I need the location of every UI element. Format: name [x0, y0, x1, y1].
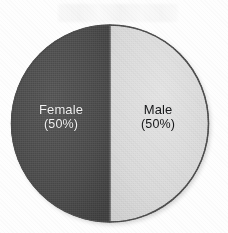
pie-chart-graphic: [0, 0, 228, 233]
pie-slice-male[interactable]: [110, 25, 209, 222]
pie-slice-female[interactable]: [11, 25, 110, 222]
pie-chart-figure: Female (50%) Male (50%): [0, 0, 228, 233]
